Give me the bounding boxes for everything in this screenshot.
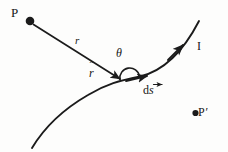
physics-diagram-figure: P r θ I ˆ r ds P′	[0, 0, 228, 152]
label-field-point-P-prime: P′	[198, 106, 207, 118]
ds-base-letter: s	[149, 83, 154, 97]
hat-accent-icon: ˆ	[89, 60, 93, 71]
label-distance-r: r	[75, 35, 79, 46]
current-direction-arrow-icon	[168, 45, 183, 60]
prime-mark: ′	[205, 105, 208, 119]
label-unit-vector-r-hat: ˆ r	[89, 67, 94, 79]
ds-symbol-group: s	[149, 84, 154, 96]
label-angle-theta: θ	[116, 47, 122, 59]
label-current-element-ds: ds	[143, 84, 154, 96]
source-point-P-dot	[26, 17, 35, 26]
separation-vector-r-arrow	[34, 25, 121, 80]
r-hat-group: ˆ r	[89, 67, 94, 79]
label-source-point-P: P	[11, 6, 18, 19]
field-point-letter: P	[198, 105, 205, 119]
diagram-canvas	[0, 0, 228, 152]
label-current-I: I	[197, 40, 201, 52]
